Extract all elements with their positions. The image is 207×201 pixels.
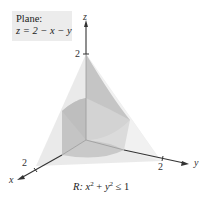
y-tick-label: 2 <box>158 161 163 172</box>
x-tick-label: 2 <box>22 157 27 168</box>
x-axis-label: x <box>9 174 13 185</box>
region-plus: + <box>94 181 105 192</box>
z-axis-label: z <box>83 11 87 22</box>
y-axis-arrow-icon <box>181 161 189 166</box>
region-name: R: <box>73 181 83 192</box>
y-axis-label: y <box>194 157 198 168</box>
region-caption: R: x2 + y2 ≤ 1 <box>73 181 129 192</box>
x-axis-arrow-icon <box>17 175 25 180</box>
z-tick-label: 2 <box>75 48 80 59</box>
region-inequality: ≤ 1 <box>113 181 129 192</box>
solid-figure <box>0 0 207 201</box>
